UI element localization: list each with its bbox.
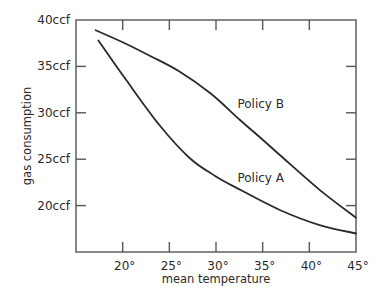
y-tick-label: 40ccf	[37, 13, 70, 27]
y-tick-label: 25ccf	[37, 152, 70, 166]
y-tick-label: 20ccf	[37, 199, 70, 213]
series-labels: Policy BPolicy A	[237, 97, 284, 184]
plot-frame	[76, 20, 356, 252]
axis-ticks: 20°25°30°35°40°45°20ccf25ccf30ccf35ccf40…	[37, 13, 368, 273]
y-tick-label: 35ccf	[37, 59, 70, 73]
x-tick-label: 25°	[161, 259, 182, 273]
y-axis-label: gas consumption	[20, 87, 34, 185]
x-tick-label: 20°	[114, 259, 135, 273]
y-tick-label: 30ccf	[37, 106, 70, 120]
label-policy-b: Policy B	[237, 97, 284, 111]
line-policy-b	[96, 30, 356, 217]
x-axis-label: mean temperature	[162, 272, 271, 286]
line-policy-a	[98, 40, 356, 233]
chart-svg: 20°25°30°35°40°45°20ccf25ccf30ccf35ccf40…	[0, 0, 389, 304]
label-policy-a: Policy A	[237, 171, 284, 185]
plot-border	[76, 20, 356, 252]
x-tick-label: 45°	[347, 259, 368, 273]
gas-consumption-chart: 20°25°30°35°40°45°20ccf25ccf30ccf35ccf40…	[0, 0, 389, 304]
x-tick-label: 35°	[254, 259, 275, 273]
x-tick-label: 30°	[207, 259, 228, 273]
series-lines	[96, 30, 356, 233]
x-tick-label: 40°	[301, 259, 322, 273]
